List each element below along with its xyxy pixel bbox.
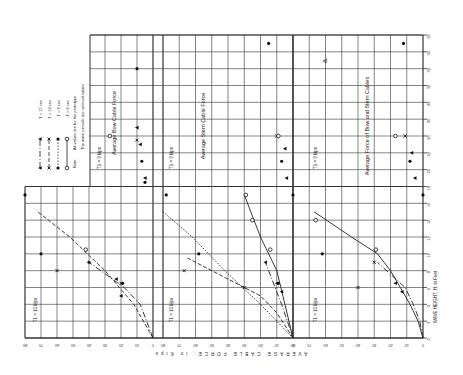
tick-label-h: 34	[426, 50, 431, 55]
filled-circle-marker	[143, 181, 146, 184]
tick-label-h: 28	[426, 101, 431, 106]
triangle-marker	[413, 176, 417, 180]
filled-circle-marker	[321, 252, 324, 255]
panel-title-average: Average Force of Bow and Stern Cables	[364, 77, 370, 176]
filled-circle-marker	[277, 282, 280, 285]
label-t1-low-bow: T1 = 3 kips	[97, 146, 102, 169]
open-circle-marker	[314, 218, 318, 222]
y-axis-label: AVERAGE CABLE FORCE, in Kips	[153, 351, 307, 356]
open-circle-marker	[244, 193, 248, 197]
filled-circle-marker	[197, 252, 200, 255]
tick-label-v: 50	[339, 343, 344, 348]
tick-label-h: 36	[426, 34, 431, 39]
rotated-cable-force-chart: 0246810121416182022242628303234360102030…	[0, 0, 463, 375]
open-circle-marker	[65, 137, 69, 141]
tick-label-h: 12	[426, 236, 431, 241]
filled-circle-marker	[23, 193, 26, 196]
tick-label-v: 30	[371, 343, 376, 348]
tick-label-h: 18	[426, 185, 431, 190]
filled-circle-marker	[135, 67, 138, 70]
tick-label-v: 20	[258, 343, 263, 348]
tick-label-v: 80	[160, 343, 165, 348]
open-circle-marker	[251, 218, 255, 222]
legend-note-line-1: All values are for the prototype	[72, 95, 77, 150]
tick-label-v: 10	[274, 343, 279, 348]
tick-label-v: 10	[134, 343, 139, 348]
legend-entry-2: T = 9 sec	[56, 100, 61, 117]
label-t1-low-stern: T1 = 3 kips	[169, 146, 174, 169]
curve-t-15-sec	[265, 262, 293, 338]
panel-title-stern: Average Stern Cable Force	[200, 93, 206, 160]
label-t1-high-avg: T1 = 10 kips	[313, 297, 318, 322]
tick-label-v: 60	[193, 343, 198, 348]
filled-circle-marker	[121, 282, 124, 285]
tick-label-v: 30	[241, 343, 246, 348]
tick-label-v: 40	[86, 343, 91, 348]
open-circle-marker	[268, 248, 272, 252]
tick-label-h: 30	[426, 84, 431, 89]
tick-label-h: 32	[426, 67, 431, 72]
filled-circle-marker	[140, 160, 143, 163]
label-t1-high-stern: T1 = 10 kips	[169, 297, 174, 322]
filled-circle-marker	[421, 193, 424, 196]
tick-label-v: 70	[38, 343, 43, 348]
tick-label-v: 50	[70, 343, 75, 348]
tick-label-h: 14	[426, 219, 431, 224]
triangle-marker	[285, 176, 289, 180]
filled-circle-marker	[87, 261, 90, 264]
tick-label-h: 26	[426, 118, 431, 123]
tick-label-v: 40	[355, 343, 360, 348]
open-circle-marker	[394, 134, 398, 138]
triangle-marker	[283, 147, 287, 151]
tick-label-v: 80	[290, 343, 295, 348]
label-t1-low-avg: T1 = 3 kips	[313, 146, 318, 169]
filled-circle-marker	[408, 160, 411, 163]
open-circle-marker	[84, 248, 88, 252]
legend-entry-1: T = 12 sec	[47, 100, 52, 119]
filled-circle-marker	[267, 42, 270, 45]
tick-label-h: 16	[426, 202, 431, 207]
legend	[38, 137, 69, 170]
tick-label-v: 60	[54, 343, 59, 348]
tick-label-v: 20	[118, 343, 123, 348]
x-axis-label: WAVE HEIGHT, H, in Feet	[433, 270, 438, 323]
fitted-curves	[38, 195, 423, 338]
tick-label-v: 30	[102, 343, 107, 348]
triangle-marker	[138, 143, 142, 147]
triangle-marker	[393, 281, 397, 285]
legend-entry-0: T = 15 sec	[38, 100, 43, 119]
triangle-marker	[263, 260, 267, 264]
filled-circle-marker	[280, 160, 283, 163]
triangle-marker	[410, 151, 414, 155]
tick-label-v: 0	[151, 343, 154, 348]
tick-label-v: 60	[323, 343, 328, 348]
filled-circle-marker	[165, 193, 168, 196]
curve-t-12-sec	[38, 212, 153, 338]
tick-label-v: 0	[421, 343, 424, 348]
filled-circle-marker	[402, 42, 405, 45]
tick-label-v: 40	[225, 343, 230, 348]
open-circle-marker	[374, 248, 378, 252]
tick-label-v: 80	[22, 343, 27, 348]
triangle-marker	[143, 176, 147, 180]
curve-t-15-sec	[378, 262, 424, 338]
label-t1-high-bow: T1 = 10 kips	[33, 297, 38, 322]
filled-circle-marker	[56, 137, 59, 140]
tick-label-v: 10	[404, 343, 409, 348]
filled-circle-marker	[56, 166, 59, 169]
panel-title-bow: Average Bow Cable Force	[111, 91, 117, 155]
tick-label-h: 24	[426, 135, 431, 140]
legend-note-label: Note	[72, 159, 77, 168]
tick-label-v: 70	[176, 343, 181, 348]
chart-labels: Average Bow Cable ForceAverage Stern Cab…	[33, 57, 438, 356]
tick-label-h: 20	[426, 168, 431, 173]
legend-note-line-2: The wave periods are nominal values	[80, 84, 85, 150]
tick-label-h: 10	[426, 252, 431, 257]
tick-label-v: 70	[306, 343, 311, 348]
curve-t-12-sec	[187, 258, 293, 338]
open-circle-marker	[65, 166, 69, 170]
tick-label-v: 50	[209, 343, 214, 348]
tick-label-v: 20	[388, 343, 393, 348]
legend-entry-3: T = 6 sec	[65, 100, 70, 117]
panel-letter: a.	[321, 57, 328, 63]
